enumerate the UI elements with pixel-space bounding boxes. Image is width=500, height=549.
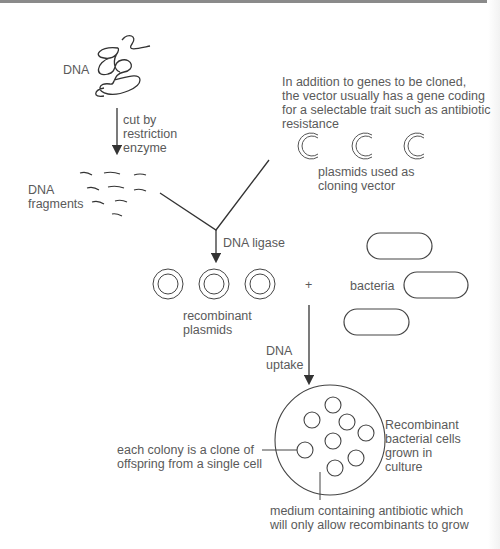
dna-fragments-icon	[80, 172, 146, 216]
colony-note: each colony is a clone of offspring from…	[117, 443, 262, 471]
plus-sign: +	[305, 278, 312, 292]
culture-note: Recombinant bacterial cells grown in cul…	[385, 418, 461, 474]
vector-plasmids-icon	[298, 133, 424, 159]
plasmids-vector-label: plasmids used as cloning vector	[318, 165, 415, 193]
ligation-merge-lines	[160, 160, 269, 230]
dna-tangle-icon	[96, 36, 150, 97]
dna-fragments-label: DNA fragments	[28, 183, 84, 211]
culture-dish-icon	[275, 385, 385, 495]
recombinant-plasmids-label: recombinant plasmids	[183, 309, 252, 337]
recombinant-plasmids-icon	[153, 269, 275, 299]
medium-note: medium containing antibiotic which will …	[270, 504, 469, 532]
ligase-label: DNA ligase	[223, 236, 285, 250]
dna-label: DNA	[63, 63, 89, 77]
vector-note: In addition to genes to be cloned, the v…	[282, 75, 490, 131]
cut-step-label: cut by restriction enzyme	[123, 113, 177, 155]
uptake-label: DNA uptake	[266, 344, 304, 372]
bacteria-label: bacteria	[350, 279, 394, 293]
